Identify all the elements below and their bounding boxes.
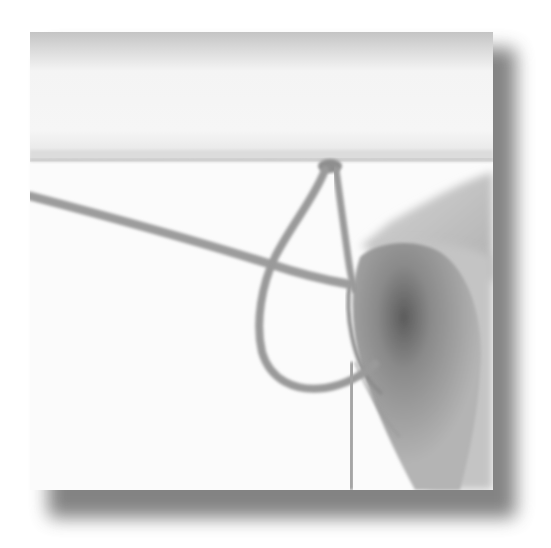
photo-figure: Grayscale photograph of a hand tying a r… xyxy=(0,0,551,548)
knot-illustration xyxy=(30,32,493,490)
knot-photo: Grayscale photograph of a hand tying a r… xyxy=(30,32,493,490)
background-upper xyxy=(30,32,493,162)
rope-vertical-strand xyxy=(351,362,352,490)
